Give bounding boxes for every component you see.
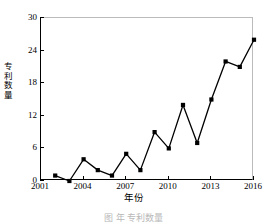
series-markers bbox=[53, 38, 256, 183]
x-tick-mark bbox=[125, 176, 126, 180]
data-point bbox=[209, 97, 213, 101]
y-tick-mark bbox=[40, 17, 44, 18]
series-line bbox=[41, 18, 254, 181]
data-point bbox=[138, 168, 142, 172]
y-tick-label: 24 bbox=[28, 45, 37, 54]
x-tick-mark bbox=[253, 176, 254, 180]
data-point bbox=[82, 157, 86, 161]
y-tick-mark bbox=[40, 82, 44, 83]
y-tick-mark bbox=[40, 50, 44, 51]
y-tick-mark bbox=[40, 115, 44, 116]
y-tick-label: 6 bbox=[33, 143, 38, 152]
x-tick-label: 2007 bbox=[116, 182, 134, 191]
y-axis-title: 专利数量 bbox=[2, 62, 14, 100]
plot-area bbox=[40, 17, 253, 180]
patent-count-line-chart: 专利数量 0612182430 200120042007201020132016… bbox=[0, 0, 267, 223]
y-tick-label: 18 bbox=[28, 78, 37, 87]
data-point bbox=[238, 65, 242, 69]
figure-caption: 图 年 专利数量 bbox=[0, 213, 267, 223]
x-tick-mark bbox=[168, 176, 169, 180]
x-tick-label: 2004 bbox=[74, 182, 92, 191]
x-tick-label: 2013 bbox=[201, 182, 219, 191]
data-point bbox=[252, 38, 256, 42]
data-point bbox=[110, 173, 114, 177]
data-point bbox=[67, 179, 71, 183]
data-point bbox=[167, 146, 171, 150]
x-tick-mark bbox=[83, 176, 84, 180]
x-tick-mark bbox=[40, 176, 41, 180]
x-tick-mark bbox=[210, 176, 211, 180]
data-point bbox=[153, 130, 157, 134]
x-tick-label: 2010 bbox=[159, 182, 177, 191]
data-point bbox=[181, 103, 185, 107]
data-point bbox=[195, 141, 199, 145]
y-tick-label: 12 bbox=[28, 110, 37, 119]
data-point bbox=[224, 59, 228, 63]
data-point bbox=[53, 173, 57, 177]
data-point bbox=[124, 152, 128, 156]
data-point bbox=[96, 168, 100, 172]
y-tick-mark bbox=[40, 147, 44, 148]
x-tick-label: 2016 bbox=[244, 182, 262, 191]
x-tick-label: 2001 bbox=[31, 182, 49, 191]
y-tick-label: 30 bbox=[28, 13, 37, 22]
x-axis-title: 年份 bbox=[0, 193, 267, 203]
